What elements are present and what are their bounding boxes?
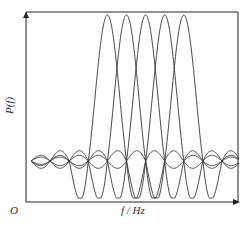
origin-label: O xyxy=(10,204,18,216)
spectrum-chart xyxy=(0,0,247,227)
x-axis-label: f / Hz xyxy=(121,204,145,216)
spectrum-curve-2 xyxy=(31,15,239,198)
spectrum-curve-4 xyxy=(31,15,239,198)
spectrum-curve-5 xyxy=(31,15,239,198)
x-axis-arrow-icon xyxy=(233,199,240,205)
y-axis-label: P(f) xyxy=(3,97,15,114)
spectrum-curve-3 xyxy=(31,15,239,198)
spectrum-curve-1 xyxy=(31,15,239,198)
y-axis-arrow-icon xyxy=(23,12,29,18)
